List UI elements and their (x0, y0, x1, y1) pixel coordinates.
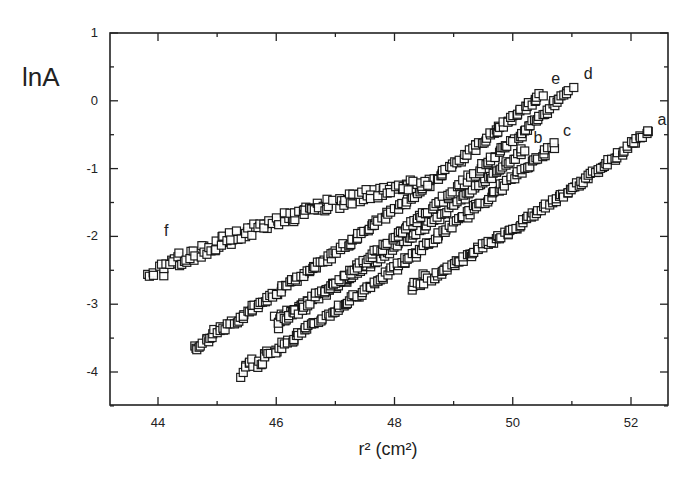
x-tick-label: 46 (269, 415, 283, 430)
series-label-e: e (551, 70, 560, 87)
x-tick-label: 44 (151, 415, 165, 430)
series-label-b: b (533, 129, 542, 146)
x-tick-label: 52 (624, 415, 638, 430)
x-tick-label: 50 (506, 415, 520, 430)
series-label-a: a (658, 111, 667, 128)
y-tick-label: -2 (86, 228, 98, 243)
y-tick-label: -4 (86, 364, 98, 379)
y-axis-label: lnA (22, 62, 60, 92)
x-axis-label: r² (cm²) (359, 439, 418, 459)
series-label-d: d (584, 65, 593, 82)
y-tick-label: 1 (91, 25, 98, 40)
y-tick-label: -3 (86, 296, 98, 311)
series-label-f: f (164, 222, 169, 239)
data-points (144, 84, 653, 382)
x-tick-label: 48 (387, 415, 401, 430)
y-tick-label: -1 (86, 161, 98, 176)
chart: lnA r² (cm²) 444648505210-1-2-3-4 abcdef (0, 0, 700, 491)
y-tick-label: 0 (91, 93, 98, 108)
series-label-c: c (563, 122, 571, 139)
series-c (237, 139, 559, 382)
series-e (191, 90, 547, 354)
